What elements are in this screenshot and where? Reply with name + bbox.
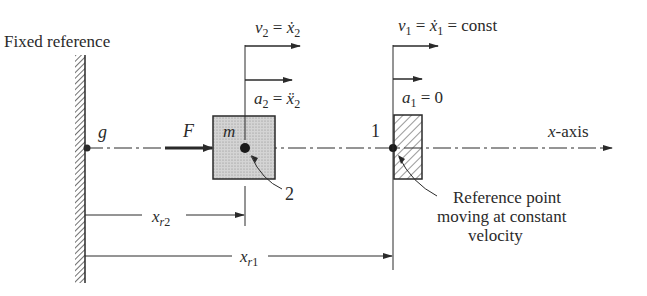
note-line-3: velocity xyxy=(468,226,523,245)
point-2-dot xyxy=(240,143,250,153)
note-line-1: Reference point xyxy=(453,188,561,207)
a1-label: a1 = 0 xyxy=(402,88,443,110)
xr1-label: xr1 xyxy=(239,247,258,269)
a2-label: a2 = ẍ2 xyxy=(254,89,300,111)
mass-label: m xyxy=(223,122,235,141)
ground-point-dot xyxy=(84,145,91,152)
fixed-wall xyxy=(75,55,85,283)
xr2-label: xr2 xyxy=(151,207,170,229)
diagram-canvas: Fixed reference x-axis g F m v2 = ẋ2 a2 … xyxy=(0,0,647,296)
point-1-label: 1 xyxy=(371,121,380,141)
reference-block xyxy=(394,115,422,179)
point-2-label: 2 xyxy=(285,184,294,204)
v2-label: v2 = ẋ2 xyxy=(255,18,300,40)
x-axis-label: x-axis xyxy=(547,122,589,141)
v1-label: v1 = ẋ1 = const xyxy=(398,16,497,38)
force-label: F xyxy=(182,121,195,141)
note-line-2: moving at constant xyxy=(437,207,567,226)
fixed-reference-label: Fixed reference xyxy=(4,32,110,51)
ground-point-label: g xyxy=(98,122,107,142)
